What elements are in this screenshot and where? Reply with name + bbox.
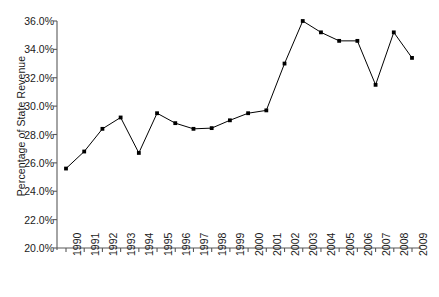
data-point-marker [155,111,159,115]
data-point-marker [264,108,268,112]
x-axis-tick-label: 1993 [125,233,137,256]
data-point-marker [283,62,287,66]
data-point-marker [301,19,305,23]
data-point-marker [337,39,341,43]
data-point-marker [137,151,141,155]
x-axis-tick-label: 1998 [216,233,228,256]
data-point-marker [64,167,68,171]
data-point-marker [192,127,196,131]
x-axis-tick-label: 2003 [307,233,319,256]
data-series-line [66,21,412,169]
x-axis-tick-label: 1992 [107,233,119,256]
x-axis-tick-label: 1991 [89,233,101,256]
data-point-marker [228,118,232,122]
x-axis-tick-label: 1995 [162,233,174,256]
data-point-marker [319,30,323,34]
data-point-marker [210,126,214,130]
data-point-marker [410,56,414,60]
data-point-marker [246,111,250,115]
x-axis-tick-label: 1994 [143,233,155,256]
x-axis-tick-label: 2008 [398,233,410,256]
x-axis-tick-label: 2009 [417,233,429,256]
x-axis-tick-label: 2000 [253,233,265,256]
line-chart: Percentage of State Revenue 20.0%22.0%24… [0,0,439,297]
data-point-marker [392,30,396,34]
data-point-marker [119,116,123,120]
x-axis-tick-label: 2004 [325,233,337,256]
x-axis-tick-label: 1990 [71,233,83,256]
data-point-marker [173,121,177,125]
x-axis-tick-label: 1996 [180,233,192,256]
x-axis-tick-label: 2001 [271,233,283,256]
x-axis-tick-label: 1997 [198,233,210,256]
data-point-marker [82,150,86,154]
x-axis-tick-label: 2002 [289,233,301,256]
x-axis-tick-label: 2007 [380,233,392,256]
data-point-marker [374,83,378,87]
data-point-marker [101,127,105,131]
x-axis-tick-label: 2006 [362,233,374,256]
x-axis-tick-label: 2005 [344,233,356,256]
x-axis-tick-label: 1999 [234,233,246,256]
data-point-marker [355,39,359,43]
